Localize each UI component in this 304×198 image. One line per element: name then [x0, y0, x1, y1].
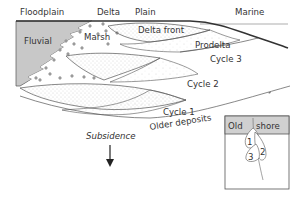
prodelta-label: Prodelta: [195, 40, 230, 50]
inset-shore-label: shore: [256, 121, 280, 131]
subsidence-arrow-icon: [106, 145, 114, 167]
fluvial-label: Fluvial: [24, 36, 52, 46]
floodplain-label: Floodplain: [20, 7, 64, 17]
plain-label: Plain: [135, 7, 156, 17]
marsh-label: Marsh: [84, 32, 110, 42]
inset-lobe-3-number: 3: [248, 152, 253, 162]
delta-cross-section-diagram: Floodplain Delta Plain Marine Fluvial Ma…: [0, 0, 304, 198]
delta-label: Delta: [97, 7, 120, 17]
delta-front-label: Delta front: [138, 25, 185, 35]
cycle-3-label: Cycle 3: [210, 54, 242, 64]
inset-lobe-2-number: 2: [260, 147, 265, 157]
subsidence-label: Subsidence: [86, 131, 135, 141]
inset-lobe-1-number: 1: [247, 137, 252, 147]
marine-label: Marine: [235, 7, 264, 17]
inset-old-label: Old: [228, 121, 243, 131]
cycle-2-label: Cycle 2: [187, 79, 219, 89]
inset-map: Old shore 1 2 3: [225, 116, 289, 189]
